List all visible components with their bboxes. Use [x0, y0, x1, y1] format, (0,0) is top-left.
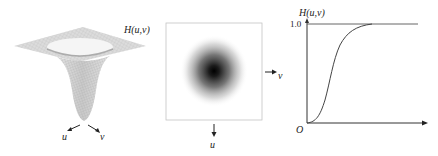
image-v-arrow-icon: [265, 70, 277, 75]
x-axis: [307, 121, 428, 126]
surface-plot: H(u,v) u v: [0, 0, 150, 156]
image-view-panel: v u: [150, 0, 290, 156]
cross-section-panel: H(u,v) 1.0 O: [290, 0, 438, 156]
surface-h-label: H(u,v): [123, 24, 150, 36]
image-u-label: u: [210, 139, 215, 150]
origin-label: O: [296, 124, 303, 135]
y-tick-label-1: 1.0: [290, 19, 302, 29]
v-axis-arrow-icon: [88, 125, 100, 133]
gaussian-highpass-curve: [307, 24, 372, 123]
u-axis-arrow-icon: [67, 125, 80, 131]
surface-cone: [55, 56, 110, 121]
image-dark-center: [180, 35, 248, 107]
surface-v-label: v: [100, 131, 105, 142]
y-axis-label: H(u,v): [298, 7, 325, 19]
y-axis: [305, 18, 309, 123]
image-v-label: v: [278, 70, 283, 81]
surface-u-label: u: [62, 131, 67, 142]
image-u-arrow-icon: [212, 124, 217, 137]
surface-plot-panel: H(u,v) u v: [0, 0, 150, 156]
cross-section-plot: H(u,v) 1.0 O: [290, 0, 438, 156]
filter-image: v u: [150, 0, 290, 156]
